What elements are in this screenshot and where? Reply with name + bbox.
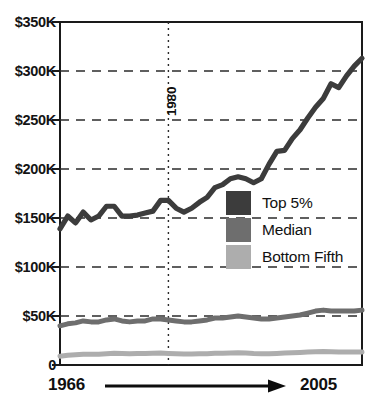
- legend-swatch-bottom-fifth: [226, 245, 251, 269]
- legend-label-bottom-fifth: Bottom Fifth: [262, 248, 343, 266]
- series-line: [60, 310, 362, 326]
- legend-label-median: Median: [262, 221, 312, 239]
- series-line: [60, 351, 362, 356]
- legend-item-median: Median: [226, 217, 343, 242]
- legend-item-top-5: Top 5%: [226, 190, 343, 215]
- chart-legend: Top 5% Median Bottom Fifth: [226, 190, 343, 271]
- x-axis-start-label: 1966: [48, 375, 85, 395]
- chart-figure: $350K $300K $250K $200K $150K $100K $50K…: [0, 0, 376, 402]
- legend-item-bottom-fifth: Bottom Fifth: [226, 244, 343, 269]
- x-axis-arrow: [105, 380, 286, 393]
- year-marker-label: 1980: [164, 87, 179, 116]
- legend-swatch-top-5: [226, 191, 251, 215]
- x-axis-end-label: 2005: [300, 375, 337, 395]
- y-axis-ticks: [52, 22, 60, 365]
- legend-swatch-median: [226, 218, 251, 242]
- legend-label-top-5: Top 5%: [262, 194, 313, 212]
